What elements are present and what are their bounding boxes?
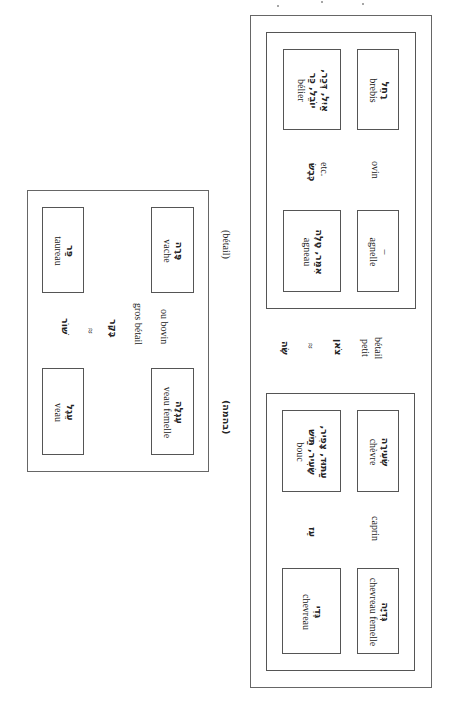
small-livestock-label-line2: bétail (373, 337, 384, 359)
note-behema: (בהמה) (221, 400, 232, 434)
scan-speck (321, 1, 323, 3)
french-term: brebis (367, 78, 379, 102)
cell-agnelle: – agnelle (357, 210, 399, 292)
hebrew-term-line1: אַיִל, דְּכַר, (319, 69, 331, 112)
cell-vache: פָּרָה vache (151, 207, 194, 293)
caprine-label: caprin (370, 516, 381, 541)
hebrew-term: אִמַּר, טָלֶה (313, 229, 325, 274)
cell-chevreau-femelle: גְּדִיָּה chevreau femelle (357, 568, 399, 654)
french-term: agnelle (367, 238, 379, 267)
hebrew-term: פָּרָה (174, 242, 186, 261)
french-term: veau (52, 403, 64, 422)
french-term: veau femelle (162, 387, 174, 438)
hebrew-term-line1: עַתּוּד, צָפִיר, (319, 425, 331, 478)
cell-brebis: רָחֵל brebis (357, 49, 399, 130)
bovine-equals: ≈ (85, 328, 96, 334)
hebrew-term: פַּר (64, 245, 76, 257)
french-term: chevreau femelle (367, 578, 379, 647)
french-term: bélier (295, 79, 307, 102)
small-livestock-hebrew-term: שֶׂה (280, 341, 291, 355)
ovine-etc: etc. (319, 162, 330, 176)
hebrew-term: גְּדִי (313, 606, 325, 619)
french-term: bouc (295, 442, 307, 461)
cell-chevreau: גְּדִי chevreau (282, 568, 341, 654)
cell-taureau: פַּר taureau (42, 207, 84, 293)
bovine-label-line2: ou bovin (159, 309, 170, 344)
french-term: chèvre (367, 439, 379, 466)
scan-speck (277, 5, 279, 7)
small-livestock-equals: ≈ (305, 343, 316, 349)
hebrew-term-line2: שָׂעִיר, תַּיִשׁ (307, 429, 319, 474)
cell-agneau: אִמַּר, טָלֶה agneau (283, 210, 341, 292)
bovine-label-line1: gros bétail (133, 303, 144, 345)
caprine-hebrew-term: עֵז (307, 527, 318, 537)
ovine-hebrew-term: כֶּבֶשׂ (307, 163, 318, 181)
french-term: taureau (52, 236, 64, 265)
hebrew-term: עֵגֶל (64, 404, 76, 420)
note-betail: (bétail) (221, 230, 232, 259)
cell-bouc: עַתּוּד, צָפִיר, שָׂעִיר, תַּיִשׁ bouc (282, 410, 341, 492)
hebrew-term: גְּדִיָּה (379, 602, 391, 621)
bovine-collective-term: בָּקָר (108, 319, 119, 338)
french-term: chevreau (301, 594, 313, 630)
ovine-label: ovin (370, 161, 381, 179)
cell-veau-femelle: עֶגְלָה veau femelle (151, 368, 194, 455)
small-livestock-label-line1: petit (360, 339, 371, 357)
hebrew-term: שְׂעִירָה (379, 438, 391, 467)
hebrew-term-line2: יוֹבֵל, כַּר (307, 73, 319, 109)
cell-veau: עֵגֶל veau (42, 368, 84, 455)
hebrew-term: עֶגְלָה (174, 401, 186, 424)
hebrew-term: – (379, 250, 391, 255)
small-livestock-collective-term: צֹאן (333, 339, 344, 355)
french-term: vache (162, 239, 174, 262)
bovine-hebrew-term: שׁוֹר (60, 318, 71, 334)
cell-chevre: שְׂעִירָה chèvre (357, 410, 399, 492)
hebrew-term: רָחֵל (379, 82, 391, 100)
cell-belier: אַיִל, דְּכַר, יוֹבֵל, כַּר bélier (283, 49, 341, 130)
scan-speck (362, 3, 364, 5)
french-term: agneau (301, 238, 313, 266)
